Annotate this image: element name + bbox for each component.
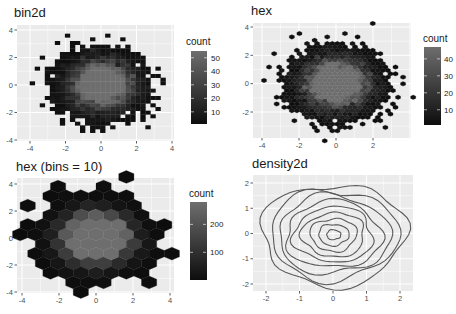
- faceted-chart: bin2d -4-2024420-2-4 count 5040302010 he…: [0, 0, 456, 314]
- y-tick-label: 2: [9, 207, 13, 216]
- legend-tick-label: 30: [444, 72, 453, 81]
- x-tick-label: 2: [131, 296, 135, 305]
- legend-tick-label: 10: [211, 108, 220, 117]
- y-tick-label: -2: [6, 108, 13, 117]
- x-tick-label: 2: [398, 294, 402, 303]
- legend-title: count: [423, 33, 448, 44]
- x-tick-label: -4: [259, 141, 266, 150]
- legend-tick-label: 40: [444, 55, 453, 64]
- legend-tick-label: 200: [210, 220, 224, 229]
- legend-tick-label: 30: [211, 81, 220, 90]
- y-tick-label: 2: [9, 53, 13, 62]
- panel-bin2d: bin2d -4-2024420-2-4 count 5040302010: [6, 5, 220, 153]
- x-tick-label: -1: [296, 294, 303, 303]
- legend: count 200100: [189, 188, 224, 280]
- legend-tick-label: 100: [210, 248, 224, 257]
- legend-tick-label: 20: [444, 89, 453, 98]
- x-tick-label: 0: [99, 144, 103, 153]
- y-tick-label: -4: [6, 288, 13, 297]
- x-tick-label: -2: [296, 141, 303, 150]
- y-tick-label: -1: [242, 254, 249, 263]
- y-tick-label: 4: [9, 26, 13, 35]
- legend-title: count: [189, 188, 214, 199]
- x-tick-label: -4: [19, 296, 26, 305]
- x-tick-label: 4: [168, 296, 172, 305]
- panel-title: bin2d: [14, 5, 46, 20]
- colorbar: [190, 202, 207, 280]
- y-tick-label: 4: [245, 23, 249, 32]
- legend: count 5040302010: [186, 36, 220, 124]
- panel-density2d: density2d -2-1012210-1-2: [242, 156, 413, 303]
- x-tick-label: -2: [62, 144, 69, 153]
- x-tick-label: 2: [134, 144, 138, 153]
- legend-tick-label: 10: [444, 106, 453, 115]
- panel-hex-bins-10: hex (bins = 10) -4-2024420-2-4 count 200…: [6, 159, 224, 305]
- y-tick-label: 0: [9, 81, 13, 90]
- legend-tick-label: 40: [211, 67, 220, 76]
- panel-title: hex (bins = 10): [16, 159, 102, 174]
- y-tick-label: 4: [9, 180, 13, 189]
- panel-hex: hex -4-202420-2 count 40302010: [242, 3, 453, 150]
- x-tick-label: 1: [364, 294, 368, 303]
- x-tick-label: 4: [170, 144, 174, 153]
- y-tick-label: -2: [6, 261, 13, 270]
- y-tick-label: 1: [245, 204, 249, 213]
- y-tick-label: 0: [245, 229, 249, 238]
- x-tick-label: 0: [334, 141, 338, 150]
- colorbar: [191, 51, 207, 124]
- x-tick-label: 0: [331, 294, 335, 303]
- y-tick-label: 2: [245, 51, 249, 60]
- legend-title: count: [186, 36, 211, 47]
- legend-tick-label: 20: [211, 94, 220, 103]
- y-tick-label: -2: [242, 108, 249, 117]
- y-tick-label: -2: [242, 280, 249, 289]
- panel-title: hex: [251, 3, 272, 18]
- y-tick-label: 0: [245, 79, 249, 88]
- y-tick-label: 2: [245, 179, 249, 188]
- legend-tick-label: 50: [211, 54, 220, 63]
- x-tick-label: 2: [371, 141, 375, 150]
- y-tick-label: -4: [6, 136, 13, 145]
- legend: count 40302010: [423, 33, 453, 125]
- x-tick-label: -2: [56, 296, 63, 305]
- x-tick-label: -2: [263, 294, 270, 303]
- x-tick-label: 0: [94, 296, 98, 305]
- panel-title: density2d: [252, 156, 308, 171]
- y-tick-label: 0: [9, 234, 13, 243]
- x-tick-label: -4: [27, 144, 34, 153]
